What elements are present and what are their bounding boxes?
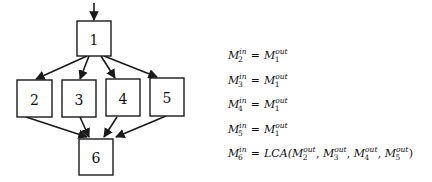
edge-1-to-2 bbox=[36, 56, 87, 79]
math-term: Mout1 bbox=[264, 49, 288, 62]
equation-1: Min2=Mout1 bbox=[228, 40, 413, 65]
node-4: 4 bbox=[106, 79, 140, 116]
edge-3-to-6 bbox=[80, 117, 89, 137]
equals-sign: = bbox=[251, 98, 260, 111]
node-label: 3 bbox=[75, 92, 84, 108]
equals-sign: = bbox=[251, 147, 260, 160]
node-label: 6 bbox=[92, 150, 101, 166]
math-term: Mout2 bbox=[292, 147, 316, 160]
math-term: Mout5 bbox=[385, 147, 409, 160]
equation-3: Min4=Mout1 bbox=[228, 89, 413, 114]
node-1: 1 bbox=[77, 21, 111, 56]
edge-1-to-3 bbox=[80, 56, 89, 79]
node-label: 5 bbox=[163, 90, 172, 106]
equation-2: Min3=Mout1 bbox=[228, 65, 413, 90]
node-label: 4 bbox=[119, 91, 128, 107]
equals-sign: = bbox=[251, 123, 260, 136]
edge-5-to-6 bbox=[116, 116, 166, 137]
node-5: 5 bbox=[150, 78, 184, 116]
math-term: Mout3 bbox=[323, 147, 347, 160]
node-label: 1 bbox=[90, 32, 99, 48]
math-term: Mout1 bbox=[264, 74, 288, 87]
node-6: 6 bbox=[79, 139, 113, 175]
edge-4-to-6 bbox=[104, 117, 117, 137]
math-term: Mout4 bbox=[354, 147, 378, 160]
math-term: Min6 bbox=[228, 147, 247, 160]
math-term: Min4 bbox=[228, 98, 247, 111]
equation-4: Min5=Mout1 bbox=[228, 114, 413, 139]
equals-sign: = bbox=[251, 74, 260, 87]
node-2: 2 bbox=[17, 80, 52, 117]
function-name: LCA( bbox=[264, 147, 292, 160]
equation-5: Min6=LCA(Mout2, Mout3, Mout4, Mout5) bbox=[228, 138, 413, 163]
math-term: Mout1 bbox=[264, 98, 288, 111]
dataflow-equations: Min2=Mout1Min3=Mout1Min4=Mout1Min5=Mout1… bbox=[228, 40, 413, 163]
equals-sign: = bbox=[251, 49, 260, 62]
math-term: Min5 bbox=[228, 123, 247, 136]
math-term: Min3 bbox=[228, 74, 247, 87]
node-3: 3 bbox=[62, 80, 96, 117]
edge-2-to-6 bbox=[26, 117, 87, 137]
control-flow-graph: 123456 bbox=[0, 0, 215, 182]
node-label: 2 bbox=[30, 92, 39, 108]
math-term: Min2 bbox=[228, 49, 247, 62]
math-term: Mout1 bbox=[264, 123, 288, 136]
